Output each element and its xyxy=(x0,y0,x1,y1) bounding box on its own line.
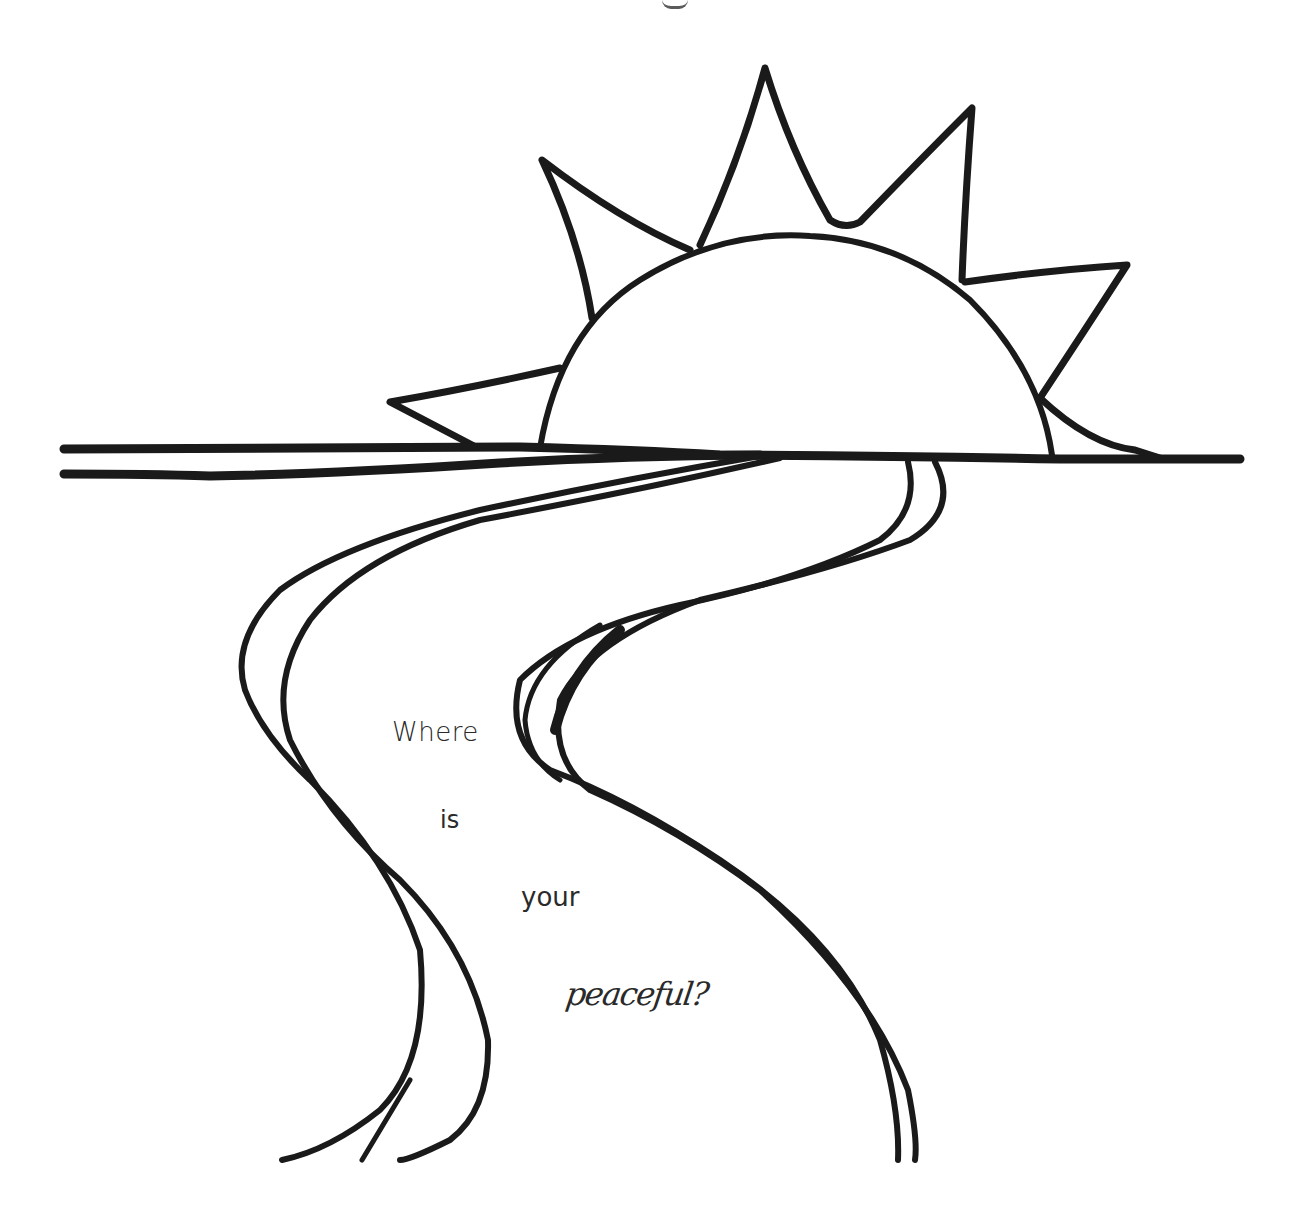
caption-word-is: is xyxy=(440,806,459,834)
horizon-lines xyxy=(64,447,1240,476)
caption-word-your: your xyxy=(521,882,579,912)
road-right-edge xyxy=(516,462,943,1160)
sunset-road-illustration xyxy=(0,0,1306,1226)
sun-icon xyxy=(540,235,1052,455)
caption-word-peaceful: peaceful? xyxy=(563,975,710,1013)
caption-word-where: Where xyxy=(392,717,479,747)
road-left-edge xyxy=(242,456,780,1160)
sun-rays-icon xyxy=(390,68,1160,458)
